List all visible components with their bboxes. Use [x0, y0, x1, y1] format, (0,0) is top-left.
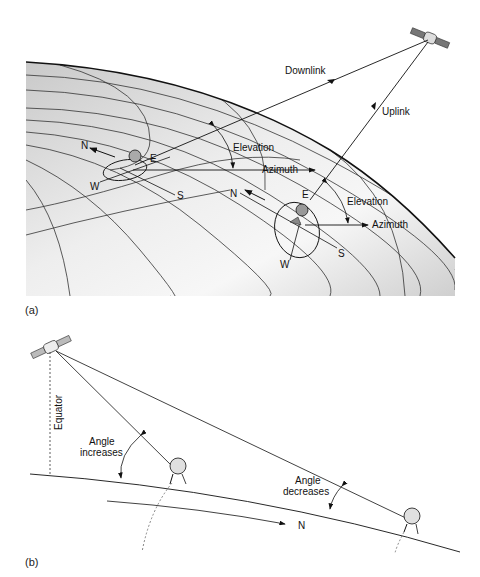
satellite-icon	[30, 334, 72, 361]
figure-b-caption: (b)	[25, 556, 38, 568]
angle-increases-label-1: Angle	[89, 436, 115, 447]
uplink-label: Uplink	[382, 106, 411, 117]
earth-surface	[26, 62, 455, 296]
angle-increases-arc	[121, 435, 141, 478]
azimuth-label-1: Azimuth	[262, 164, 298, 175]
azimuth-label-2: Azimuth	[372, 219, 408, 230]
compass-e-1: E	[150, 153, 157, 164]
satellite-icon	[410, 26, 451, 50]
compass-n-2: N	[230, 188, 237, 199]
equator-label: Equator	[53, 394, 64, 430]
compass-n-1: N	[81, 140, 88, 151]
figure-a: Downlink Uplink N E W S Elevation Azimut…	[25, 26, 459, 316]
compass-w-2: W	[280, 259, 290, 270]
compass-s-2: S	[338, 248, 345, 259]
compass-w-1: W	[90, 181, 100, 192]
angle-decreases-arc	[330, 486, 342, 509]
north-direction-line	[107, 501, 285, 524]
compass-s-1: S	[177, 190, 184, 201]
compass-e-2: E	[302, 189, 309, 200]
north-label: N	[298, 520, 305, 531]
downlink-label: Downlink	[285, 65, 327, 76]
elevation-label-2: Elevation	[347, 196, 388, 207]
angle-increases-label-2: increases	[80, 447, 123, 458]
figure-b: Equator N Angle increases Angle decrease…	[25, 334, 460, 568]
angle-decreases-label-2: decreases	[283, 486, 329, 497]
angle-decreases-label-1: Angle	[295, 475, 321, 486]
figure-a-caption: (a)	[25, 304, 38, 316]
satellite-geometry-diagram: Downlink Uplink N E W S Elevation Azimut…	[0, 0, 480, 577]
elevation-label-1: Elevation	[233, 142, 274, 153]
